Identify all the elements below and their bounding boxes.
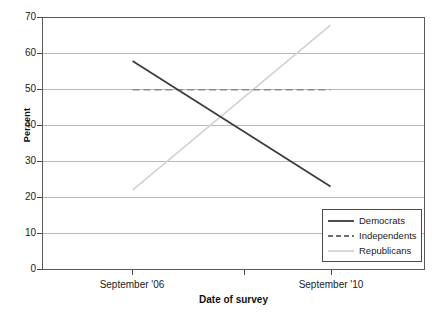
y-tick-label-10: 10 [10,228,36,238]
y-axis-tick-labels: 70 60 50 40 30 20 10 0 [8,0,36,314]
legend-item-republicans: Republicans [327,243,417,258]
legend-label-republicans: Republicans [359,246,411,256]
legend-item-democrats: Democrats [327,213,417,228]
x-tick-label-sep06: September '06 [72,279,192,290]
y-tick-label-70: 70 [10,12,36,22]
x-tick-mark-sep06 [132,270,133,275]
y-tick-label-20: 20 [10,192,36,202]
legend-swatch-republicans [327,246,355,256]
legend: Democrats Independents Republicans [322,209,422,262]
legend-item-independents: Independents [327,228,417,243]
legend-swatch-independents [327,231,355,241]
y-tick-label-40: 40 [10,120,36,130]
x-tick-mark-sep10 [331,270,332,275]
series-line-democrats [133,61,331,186]
series-line-republicans [133,25,331,190]
y-tick-label-0: 0 [10,264,36,274]
y-tick-label-50: 50 [10,84,36,94]
legend-label-democrats: Democrats [359,216,405,226]
x-tick-label-sep10: September '10 [271,279,391,290]
x-axis-title: Date of survey [42,294,425,305]
x-tick-mark-mid [244,270,245,275]
y-tick-label-30: 30 [10,156,36,166]
legend-label-independents: Independents [359,231,417,241]
y-tick-label-60: 60 [10,48,36,58]
legend-swatch-democrats [327,216,355,226]
line-chart: Percent 70 60 50 40 30 20 10 0 Sep [0,0,444,314]
